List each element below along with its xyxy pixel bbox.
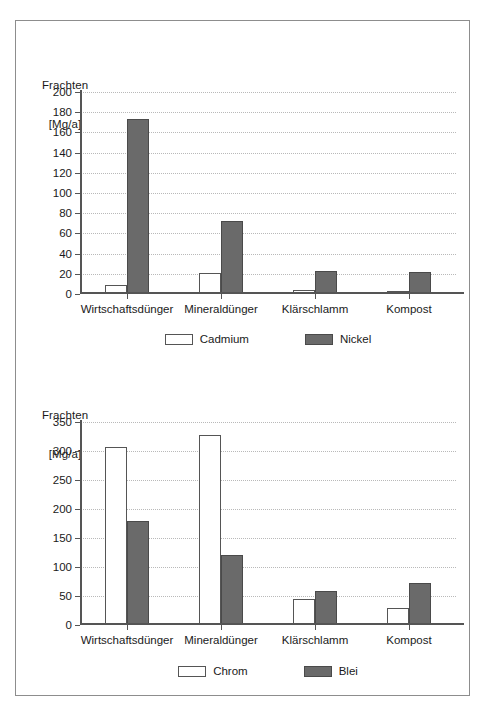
category-label-3: Kompost: [386, 633, 431, 647]
legend-swatch-chrom: [178, 666, 206, 677]
y-axis-tick-label: 20: [59, 268, 72, 280]
category-tick: [409, 625, 410, 630]
legend-label-nickel: Nickel: [340, 333, 371, 345]
y-axis-tick-label: 200: [53, 86, 72, 98]
y-axis-tick-label: 140: [53, 147, 72, 159]
y-axis-tick-label: 350: [53, 416, 72, 428]
y-axis-tick-label: 300: [53, 445, 72, 457]
y-axis-tick-label: 80: [59, 207, 72, 219]
y-axis-tick-label: 50: [59, 590, 72, 602]
legend-item-cadmium: Cadmium: [165, 333, 249, 345]
category-label-1: Mineraldünger: [184, 633, 258, 647]
category-label-2: Klärschlamm: [282, 633, 348, 647]
legend-item-nickel: Nickel: [305, 333, 371, 345]
category-tick: [127, 294, 128, 299]
gridline: [80, 132, 456, 133]
legend-swatch-blei: [304, 666, 332, 677]
chart-chrom-blei: Frachten [Mg/a] 050100150200250300350 Wi…: [30, 375, 470, 685]
y-axis-tick-label: 0: [66, 288, 72, 300]
chart-1-category-labels: WirtschaftsdüngerMineraldüngerKlärschlam…: [80, 302, 456, 318]
y-axis-tick-label: 0: [66, 619, 72, 631]
legend-swatch-nickel: [305, 334, 333, 345]
chart-2-x-axis-line: [80, 623, 464, 625]
chart-2-gridlines: 050100150200250300350: [80, 422, 456, 625]
chart-1-y-axis-line: [80, 90, 82, 294]
category-label-0: Wirtschaftsdünger: [81, 302, 174, 316]
gridline: [80, 451, 456, 452]
y-axis-tick: [75, 625, 80, 626]
y-axis-tick: [75, 294, 80, 295]
category-tick: [221, 625, 222, 630]
y-axis-tick-label: 100: [53, 561, 72, 573]
category-tick: [409, 294, 410, 299]
y-axis-tick-label: 120: [53, 167, 72, 179]
category-label-3: Kompost: [386, 302, 431, 316]
page-root: Frachten [Mg/a] 020406080100120140160180…: [0, 0, 489, 720]
y-axis-tick-label: 100: [53, 187, 72, 199]
gridline: [80, 538, 456, 539]
y-axis-tick-label: 180: [53, 106, 72, 118]
category-tick: [127, 625, 128, 630]
category-tick: [221, 294, 222, 299]
y-axis-tick-label: 150: [53, 532, 72, 544]
gridline: [80, 153, 456, 154]
legend-label-chrom: Chrom: [213, 665, 248, 677]
gridline: [80, 567, 456, 568]
category-label-0: Wirtschaftsdünger: [81, 633, 174, 647]
gridline: [80, 596, 456, 597]
legend-label-cadmium: Cadmium: [200, 333, 249, 345]
gridline: [80, 112, 456, 113]
chart-1-gridlines: 020406080100120140160180200: [80, 92, 456, 294]
legend-item-chrom: Chrom: [178, 665, 248, 677]
gridline: [80, 480, 456, 481]
gridline: [80, 193, 456, 194]
y-axis-tick-label: 60: [59, 227, 72, 239]
legend-swatch-cadmium: [165, 334, 193, 345]
chart-2-legend: ChromBlei: [80, 665, 456, 677]
y-axis-tick-label: 250: [53, 474, 72, 486]
chart-2-plot-area: 050100150200250300350 WirtschaftsdüngerM…: [80, 422, 456, 625]
y-axis-tick-label: 200: [53, 503, 72, 515]
gridline: [80, 274, 456, 275]
gridline: [80, 173, 456, 174]
gridline: [80, 422, 456, 423]
gridline: [80, 233, 456, 234]
chart-1-legend: CadmiumNickel: [80, 333, 456, 345]
gridline: [80, 213, 456, 214]
y-axis-tick-label: 160: [53, 126, 72, 138]
category-tick: [315, 625, 316, 630]
chart-2-y-axis-line: [80, 420, 82, 625]
chart-1-plot-area: 020406080100120140160180200 Wirtschaftsd…: [80, 92, 456, 294]
category-label-2: Klärschlamm: [282, 302, 348, 316]
gridline: [80, 92, 456, 93]
category-label-1: Mineraldünger: [184, 302, 258, 316]
chart-1-x-axis-line: [80, 292, 464, 294]
y-axis-tick-label: 40: [59, 248, 72, 260]
legend-item-blei: Blei: [304, 665, 358, 677]
legend-label-blei: Blei: [339, 665, 358, 677]
chart-cadmium-nickel: Frachten [Mg/a] 020406080100120140160180…: [30, 45, 470, 360]
category-tick: [315, 294, 316, 299]
gridline: [80, 254, 456, 255]
gridline: [80, 509, 456, 510]
chart-2-category-labels: WirtschaftsdüngerMineraldüngerKlärschlam…: [80, 633, 456, 649]
